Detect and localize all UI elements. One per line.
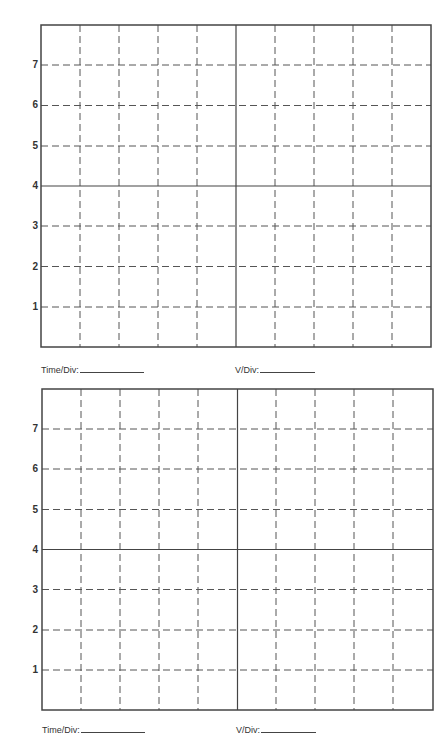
y-label-4: 4 [28,181,38,191]
oscilloscope-graticule-upper [41,25,431,347]
y-label-2: 2 [28,262,38,272]
y-label-4: 4 [28,545,38,555]
grid-lines [41,25,431,347]
v-div-label: V/Div: [236,725,260,735]
time-div-caption: Time/Div: [42,725,145,735]
y-label-1: 1 [28,302,38,312]
y-label-7: 7 [28,424,38,434]
time-div-caption: Time/Div: [41,365,144,375]
time-div-field[interactable] [80,372,144,373]
v-div-field[interactable] [261,732,316,733]
v-div-field[interactable] [260,372,315,373]
oscilloscope-graticule-lower [42,389,433,710]
time-div-field[interactable] [81,732,145,733]
v-div-caption: V/Div: [236,725,316,735]
v-div-caption: V/Div: [235,365,315,375]
y-label-1: 1 [28,665,38,675]
grid-lines [42,389,433,710]
time-div-label: Time/Div: [42,725,80,735]
y-label-2: 2 [28,625,38,635]
y-label-7: 7 [28,60,38,70]
y-label-6: 6 [28,100,38,110]
time-div-label: Time/Div: [41,365,79,375]
y-label-5: 5 [28,141,38,151]
v-div-label: V/Div: [235,365,259,375]
y-label-3: 3 [28,585,38,595]
y-label-5: 5 [28,505,38,515]
y-label-6: 6 [28,464,38,474]
y-label-3: 3 [28,221,38,231]
